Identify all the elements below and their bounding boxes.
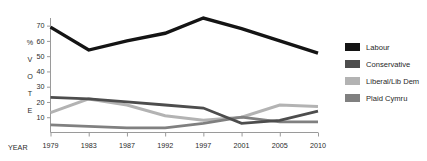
y-axis-title: % V O T E: [27, 38, 34, 115]
x-tick-label: 2001: [234, 141, 250, 150]
y-axis-title-letter: V: [28, 55, 33, 64]
y-tick-label: 20: [37, 98, 45, 107]
legend-swatch: [345, 77, 360, 85]
y-tick-label: 40: [37, 67, 45, 76]
y-tick-label: 60: [37, 37, 45, 46]
legend-label: Conservative: [366, 60, 410, 69]
legend-label: Liberal/Lib Dem: [366, 77, 419, 86]
x-tick-label: 1987: [119, 141, 135, 150]
y-tick-label: 30: [37, 82, 45, 91]
x-tick-label: 1979: [43, 141, 59, 150]
x-axis-title: YEAR: [8, 143, 28, 152]
vote-share-line-chart: % V O T E 10203040506070 197919831987199…: [0, 0, 427, 161]
series-line-labour: [51, 18, 319, 53]
y-axis-title-letter: O: [27, 72, 33, 81]
x-tick-label: 2005: [272, 141, 288, 150]
legend-swatch: [345, 43, 360, 51]
y-tick-label: 70: [37, 21, 45, 30]
y-tick-label: 50: [37, 52, 45, 61]
legend-swatch: [345, 94, 360, 102]
series-lines: [51, 18, 319, 128]
y-axis-ticks: 10203040506070: [37, 21, 51, 122]
y-axis-title-letter: E: [28, 106, 33, 115]
chart-legend: LabourConservativeLiberal/Lib DemPlaid C…: [345, 43, 419, 103]
y-tick-label: 10: [37, 113, 45, 122]
x-tick-label: 1992: [157, 141, 173, 150]
x-tick-label: 1983: [81, 141, 97, 150]
y-axis-title-letter: %: [27, 38, 34, 47]
y-axis-title-letter: T: [28, 89, 33, 98]
x-tick-label: 1997: [195, 141, 211, 150]
x-axis-ticks: 19791983198719921997200120052010: [43, 133, 327, 150]
chart-canvas: % V O T E 10203040506070 197919831987199…: [0, 0, 427, 161]
series-line-liberal-lib-dem: [51, 99, 319, 120]
legend-label: Labour: [366, 43, 390, 52]
legend-label: Plaid Cymru: [366, 94, 407, 103]
legend-swatch: [345, 60, 360, 68]
x-tick-label: 2010: [310, 141, 326, 150]
